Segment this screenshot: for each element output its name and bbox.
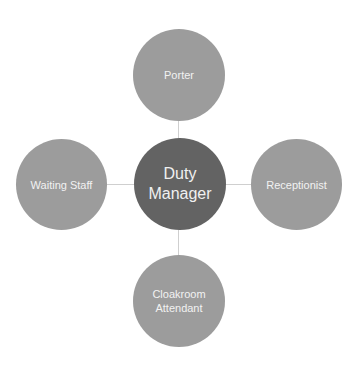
node-label-line2: Attendant <box>152 301 205 315</box>
node-label: Porter <box>164 68 194 82</box>
connector-left <box>106 184 136 185</box>
node-duty-manager: Duty Manager <box>134 138 226 230</box>
node-porter: Porter <box>133 29 225 121</box>
node-label-line1: Cloakroom <box>152 287 205 301</box>
node-label: Waiting Staff <box>31 178 93 192</box>
node-receptionist: Receptionist <box>251 139 342 230</box>
center-label-line1: Duty <box>148 164 211 184</box>
connector-bottom <box>178 228 179 258</box>
node-cloakroom-attendant: Cloakroom Attendant <box>133 255 225 347</box>
node-waiting-staff: Waiting Staff <box>16 139 107 230</box>
center-label-line2: Manager <box>148 184 211 204</box>
connector-right <box>222 184 254 185</box>
node-label: Receptionist <box>266 178 327 192</box>
